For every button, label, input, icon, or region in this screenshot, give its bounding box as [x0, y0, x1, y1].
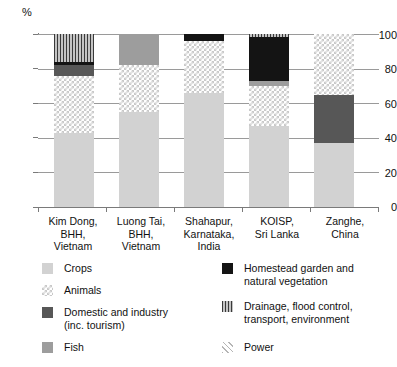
bar-segment-animals — [119, 65, 159, 112]
bar-luong-tai — [119, 34, 159, 207]
bar-segment-homestead — [54, 62, 94, 65]
chart-legend: Crops Animals Domestic and industry (inc… — [0, 262, 397, 367]
legend-item-fish: Fish — [42, 341, 212, 354]
x-category-label-zanghe: Zanghe, China — [311, 215, 379, 240]
bar-segment-animals — [314, 34, 354, 95]
bar-segment-homestead — [184, 34, 224, 41]
x-category-label-shahapur: Shahapur, Karnataka, India — [171, 215, 247, 253]
legend-item-power: Power — [222, 341, 394, 354]
bar-segment-drainage — [249, 34, 289, 37]
bar-segment-animals — [54, 76, 94, 133]
bar-segment-fish — [119, 34, 159, 65]
legend-item-domestic: Domestic and industry (inc. tourism) — [42, 306, 212, 332]
bar-segment-drainage — [54, 34, 94, 62]
legend-label-power: Power — [244, 341, 274, 354]
plot-area — [38, 34, 379, 207]
legend-label-domestic: Domestic and industry (inc. tourism) — [64, 306, 168, 332]
legend-swatch-crops-icon — [42, 263, 53, 274]
x-tick-mark-2 — [174, 207, 175, 212]
chart-root: % 100 80 60 40 20 0 — [0, 0, 397, 367]
x-tick-mark-4 — [310, 207, 311, 212]
x-category-label-luong-tai: Luong Tai, BHH, Vietnam — [107, 215, 175, 253]
legend-swatch-drainage-icon — [222, 301, 233, 312]
legend-swatch-homestead-icon — [222, 263, 233, 274]
legend-label-fish: Fish — [64, 341, 84, 354]
bar-shahapur — [184, 34, 224, 207]
x-axis-line — [38, 207, 379, 208]
legend-swatch-domestic-icon — [42, 307, 53, 318]
x-tick-mark-5 — [378, 207, 379, 212]
bar-segment-domestic — [54, 65, 94, 75]
bar-kim-dong — [54, 34, 94, 207]
legend-swatch-power-icon — [222, 342, 233, 353]
bar-segment-crops — [54, 133, 94, 207]
x-category-label-koisp: KOISP, Sri Lanka — [243, 215, 311, 240]
bar-segment-animals — [249, 86, 289, 126]
y-axis-unit-label: % — [22, 6, 32, 18]
legend-item-crops: Crops — [42, 262, 212, 275]
bar-segment-crops — [314, 143, 354, 207]
x-tick-mark-3 — [242, 207, 243, 212]
bar-koisp — [249, 34, 289, 207]
x-tick-mark-0 — [38, 207, 39, 212]
bar-segment-crops — [119, 112, 159, 207]
legend-item-animals: Animals — [42, 284, 212, 297]
legend-item-drainage: Drainage, flood control, transport, envi… — [222, 300, 394, 326]
bar-segment-crops — [184, 93, 224, 207]
bar-segment-animals — [184, 41, 224, 93]
legend-label-animals: Animals — [64, 284, 101, 297]
bar-segment-domestic — [314, 95, 354, 143]
legend-label-crops: Crops — [64, 262, 92, 275]
bar-zanghe — [314, 34, 354, 207]
legend-label-homestead: Homestead garden and natural vegetation — [244, 262, 354, 288]
x-tick-mark-1 — [106, 207, 107, 212]
legend-swatch-animals-icon — [42, 285, 53, 296]
x-category-label-kim-dong: Kim Dong, BHH, Vietnam — [39, 215, 107, 253]
bar-segment-fish — [249, 81, 289, 86]
legend-label-drainage: Drainage, flood control, transport, envi… — [244, 300, 353, 326]
legend-swatch-fish-icon — [42, 342, 53, 353]
bar-segment-homestead — [249, 37, 289, 80]
legend-item-homestead: Homestead garden and natural vegetation — [222, 262, 394, 288]
bar-segment-crops — [249, 126, 289, 207]
